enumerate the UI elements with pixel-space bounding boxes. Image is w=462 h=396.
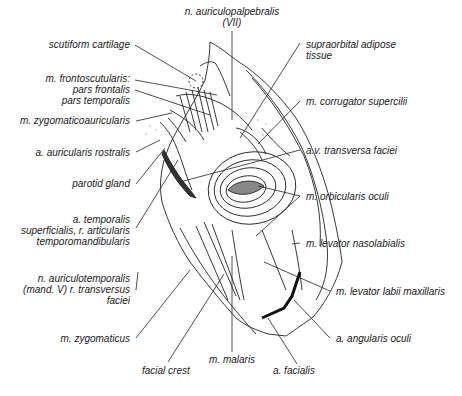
label-parotid-gland: parotid gland <box>0 178 130 189</box>
label-a-temporalis-superficialis: a. temporalis superficialis, r. articula… <box>0 214 130 247</box>
label-supraorbital-adipose-tissue: supraorbital adipose tissue <box>306 39 462 61</box>
label-m-corrugator-supercilii: m. corrugator supercilii <box>306 96 462 107</box>
parotid-gland-shape <box>162 150 196 198</box>
label-m-orbicularis-oculi: m. orbicularis oculi <box>306 191 462 202</box>
label-m-levator-nasolabialis: m. levator nasolabialis <box>306 238 462 249</box>
label-n-auriculopalpebralis: n. auriculopalpebralis (VII) <box>170 6 294 28</box>
label-m-frontoscutularis: m. frontoscutularis: pars frontalis pars… <box>0 73 130 106</box>
facial-artery-shape <box>262 272 300 318</box>
label-n-auriculotemporalis: n. auriculotemporalis (mand. V) r. trans… <box>0 273 130 306</box>
label-facial-crest: facial crest <box>142 365 190 376</box>
label-a-facialis: a. facialis <box>273 365 315 376</box>
label-a-auricularis-rostralis: a. auricularis rostralis <box>0 147 130 158</box>
label-m-levator-labii-maxillaris: m. levator labii maxillaris <box>336 286 462 297</box>
label-scutiform-cartilage: scutiform cartilage <box>0 39 130 50</box>
anatomy-figure: scutiform cartilage m. frontoscutularis:… <box>0 0 462 396</box>
label-a-angularis-oculi: a. angularis oculi <box>336 333 462 344</box>
label-m-zygomaticus: m. zygomaticus <box>0 333 130 344</box>
label-av-transversa-faciei: a.v. transversa faciei <box>306 145 462 156</box>
label-m-malaris: m. malaris <box>209 354 255 365</box>
label-m-zygomaticoauricularis: m. zygomaticoauricularis <box>0 115 130 126</box>
